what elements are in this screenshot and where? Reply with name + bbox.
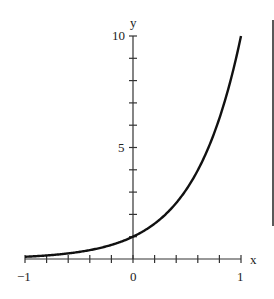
y-tick-label-5: 5 [118,140,125,155]
x-tick-label-zero: 0 [130,269,137,284]
chart: y x 10 5 −1 0 1 [0,0,274,299]
y-tick-label-10: 10 [112,28,125,43]
x-tick-label-min: −1 [17,269,31,284]
y-axis-label: y [130,15,137,30]
x-tick-label-max: 1 [237,269,244,284]
x-axis-label: x [250,252,257,267]
